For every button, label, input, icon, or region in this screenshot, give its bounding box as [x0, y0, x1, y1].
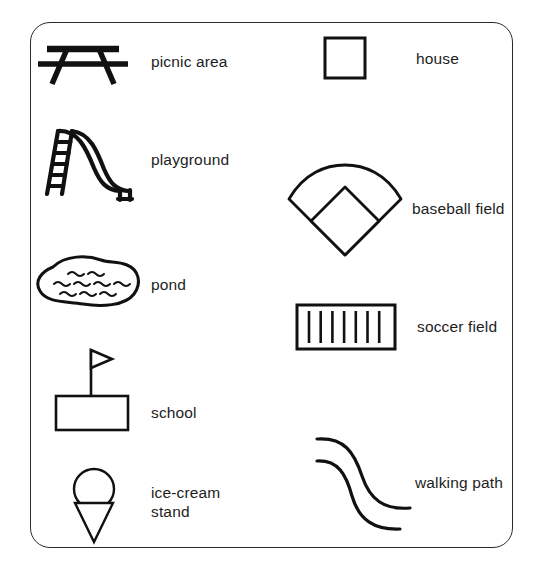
legend-item-school[interactable]: school [50, 341, 300, 431]
square-icon [323, 36, 367, 80]
legend-label-playground: playground [151, 150, 229, 169]
legend-label-school: school [151, 403, 197, 422]
pond-blob-icon [35, 253, 145, 309]
legend-item-soccer-field[interactable]: soccer field [295, 303, 525, 353]
school-flag-icon [50, 341, 134, 431]
legend-item-baseball-field[interactable]: baseball field [284, 163, 524, 259]
picnic-table-icon [38, 40, 128, 86]
legend-item-walking-path[interactable]: walking path [310, 430, 530, 540]
slide-icon [42, 124, 142, 202]
legend-label-ice-cream-stand: ice-cream stand [151, 483, 220, 521]
legend-label-soccer-field: soccer field [417, 317, 497, 336]
legend-label-baseball-field: baseball field [412, 199, 505, 218]
legend-label-house: house [416, 49, 459, 68]
legend-item-house[interactable]: house [323, 36, 523, 86]
legend-label-walking-path: walking path [415, 473, 503, 492]
legend-label-pond: pond [151, 275, 186, 294]
legend-item-playground[interactable]: playground [38, 124, 288, 202]
double-curve-icon [310, 430, 420, 536]
striped-rectangle-icon [295, 303, 397, 351]
legend-item-pond[interactable]: pond [35, 253, 285, 315]
legend-label-picnic-area: picnic area [151, 52, 228, 71]
legend-item-ice-cream-stand[interactable]: ice-cream stand [62, 466, 312, 546]
legend-item-picnic-area[interactable]: picnic area [38, 36, 288, 96]
ice-cream-cone-icon [62, 466, 126, 544]
map-legend: picnic area [0, 0, 544, 568]
baseball-diamond-icon [284, 163, 406, 257]
